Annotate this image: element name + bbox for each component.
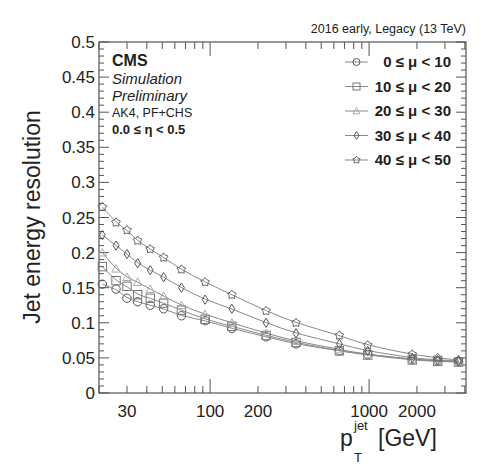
legend-item: 0 ≤ μ < 10 <box>345 53 451 70</box>
fit-curve <box>102 235 458 361</box>
y-tick-label: 0.45 <box>62 68 95 87</box>
x-tick-label: 2000 <box>398 402 436 421</box>
svg-text:Preliminary: Preliminary <box>112 87 189 104</box>
top-right-label: 2016 early, Legacy (13 TeV) <box>311 22 466 36</box>
svg-text:[GeV]: [GeV] <box>378 425 437 451</box>
legend-label: 10 ≤ μ < 20 <box>375 78 451 95</box>
svg-text:jet: jet <box>353 418 368 433</box>
fit-curves <box>102 207 458 362</box>
svg-text:Simulation: Simulation <box>112 70 182 87</box>
legend-item: 40 ≤ μ < 50 <box>345 151 451 168</box>
y-tick-label: 0.2 <box>71 244 95 263</box>
x-axis-label: p jet T [GeV] <box>340 418 437 465</box>
series-markers <box>98 248 463 364</box>
y-tick-label: 0.3 <box>71 173 95 192</box>
legend: 0 ≤ μ < 1010 ≤ μ < 2020 ≤ μ < 3030 ≤ μ <… <box>345 53 451 168</box>
fit-curve <box>102 267 458 362</box>
svg-text:AK4, PF+CHS: AK4, PF+CHS <box>112 106 192 120</box>
chart: 2016 early, Legacy (13 TeV) 00.050.10.15… <box>0 0 491 473</box>
legend-label: 30 ≤ μ < 40 <box>375 127 451 144</box>
cms-annotation: CMS Simulation Preliminary AK4, PF+CHS 0… <box>112 52 192 137</box>
series-markers <box>98 202 463 363</box>
y-tick-label: 0.05 <box>62 349 95 368</box>
legend-label: 20 ≤ μ < 30 <box>375 102 451 119</box>
y-tick-label: 0.4 <box>71 103 95 122</box>
series-markers <box>98 262 463 366</box>
x-tick-label: 100 <box>196 402 224 421</box>
y-tick-label: 0.25 <box>62 209 95 228</box>
svg-text:0.0 ≤ η < 0.5: 0.0 ≤ η < 0.5 <box>112 122 185 137</box>
svg-text:T: T <box>354 450 362 465</box>
svg-text:p: p <box>340 425 353 451</box>
legend-item: 30 ≤ μ < 40 <box>345 127 451 144</box>
legend-label: 0 ≤ μ < 10 <box>383 53 451 70</box>
legend-label: 40 ≤ μ < 50 <box>375 151 451 168</box>
data-markers <box>98 202 463 366</box>
series-markers <box>99 230 461 365</box>
y-axis-label: Jet energy resolution <box>19 110 45 324</box>
svg-text:CMS: CMS <box>112 52 148 69</box>
y-tick-label: 0.15 <box>62 279 95 298</box>
legend-item: 10 ≤ μ < 20 <box>345 78 451 95</box>
y-tick-label: 0.5 <box>71 33 95 52</box>
legend-item: 20 ≤ μ < 30 <box>345 102 451 119</box>
y-tick-label: 0 <box>86 384 95 403</box>
y-tick-label: 0.1 <box>71 314 95 333</box>
x-tick-label: 200 <box>244 402 272 421</box>
x-tick-label: 30 <box>118 402 137 421</box>
y-tick-label: 0.35 <box>62 138 95 157</box>
fit-curve <box>102 284 458 361</box>
